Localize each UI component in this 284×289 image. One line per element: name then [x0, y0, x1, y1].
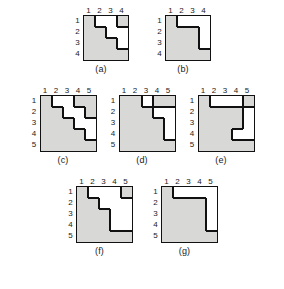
row-label-f-5: 5 [66, 230, 75, 241]
grid-cells-c [41, 96, 96, 151]
cell-e-r2c5 [243, 107, 254, 118]
diagram-body-e: 1234512345 [188, 86, 255, 152]
col-label-g-2: 2 [172, 177, 183, 186]
diagram-d: 1234512345(d) [109, 86, 176, 165]
row-label-axis-g: 12345 [151, 177, 160, 241]
cell-b-r3c4 [199, 38, 210, 49]
cell-c-r1c1 [41, 96, 52, 107]
col-label-a-3: 3 [105, 6, 116, 15]
grid-area-d: 12345 [119, 86, 176, 152]
cell-e-r5c4 [232, 140, 243, 151]
diagram-g: 1234512345(g) [151, 177, 218, 256]
axis-corner-spacer [188, 86, 197, 95]
row-label-axis-d: 12345 [109, 86, 118, 150]
col-label-e-4: 4 [231, 86, 242, 95]
cell-c-r5c1 [41, 140, 52, 151]
row-label-g-5: 5 [151, 230, 160, 241]
col-label-b-3: 3 [187, 6, 198, 15]
cell-d-r3c5 [164, 118, 175, 129]
cell-e-r1c2 [210, 96, 221, 107]
cell-g-r4c1 [162, 220, 173, 231]
cell-a-r4c1 [84, 49, 95, 60]
col-label-c-1: 1 [40, 86, 51, 95]
cell-g-r5c5 [206, 231, 217, 242]
col-label-axis-e: 12345 [198, 86, 255, 95]
row-label-d-4: 4 [109, 128, 118, 139]
cell-c-r4c3 [63, 129, 74, 140]
grid-area-f: 12345 [76, 177, 133, 243]
cell-e-r3c2 [210, 118, 221, 129]
cell-d-r2c3 [142, 107, 153, 118]
cell-e-r5c1 [199, 140, 210, 151]
cell-d-r4c4 [153, 129, 164, 140]
cell-e-r4c2 [210, 129, 221, 140]
axis-corner-spacer [151, 177, 160, 186]
cell-d-r1c1 [120, 96, 131, 107]
cell-d-r1c5 [164, 96, 175, 107]
col-label-d-3: 3 [141, 86, 152, 95]
cell-b-r1c2 [177, 16, 188, 27]
cell-e-r3c4 [232, 118, 243, 129]
col-label-d-5: 5 [163, 86, 174, 95]
cell-c-r1c5 [85, 96, 96, 107]
cell-g-r5c4 [195, 231, 206, 242]
grid-border-c [40, 95, 97, 152]
cell-c-r2c1 [41, 107, 52, 118]
cell-c-r5c3 [63, 140, 74, 151]
cell-e-r1c5 [243, 96, 254, 107]
row-label-a-2: 2 [73, 26, 82, 37]
cell-b-r4c3 [188, 49, 199, 60]
cell-f-r4c1 [77, 220, 88, 231]
cell-f-r3c4 [110, 209, 121, 220]
cell-e-r3c1 [199, 118, 210, 129]
row-label-f-4: 4 [66, 219, 75, 230]
cell-g-r4c5 [206, 220, 217, 231]
cell-c-r4c5 [85, 129, 96, 140]
diagram-caption-d: (d) [136, 155, 148, 165]
cell-g-r2c3 [184, 198, 195, 209]
row-label-e-1: 1 [188, 95, 197, 106]
grid-area-g: 12345 [161, 177, 218, 243]
cell-c-r5c4 [74, 140, 85, 151]
cell-c-r5c2 [52, 140, 63, 151]
cell-f-r4c4 [110, 220, 121, 231]
cell-c-r3c4 [74, 118, 85, 129]
grid-border-g [161, 186, 218, 243]
col-label-a-2: 2 [94, 6, 105, 15]
col-label-b-2: 2 [176, 6, 187, 15]
cell-d-r5c3 [142, 140, 153, 151]
cell-f-r5c1 [77, 231, 88, 242]
cell-a-r3c4 [117, 38, 128, 49]
cell-a-r1c4 [117, 16, 128, 27]
cell-e-r1c4 [232, 96, 243, 107]
cell-d-r2c4 [153, 107, 164, 118]
grid-border-e [198, 95, 255, 152]
cell-b-r1c1 [166, 16, 177, 27]
row-label-d-3: 3 [109, 117, 118, 128]
cell-g-r3c1 [162, 209, 173, 220]
figure-row-1: 12341234(a)12341234(b) [0, 0, 284, 74]
cell-g-r4c3 [184, 220, 195, 231]
col-label-f-1: 1 [76, 177, 87, 186]
row-label-g-4: 4 [151, 219, 160, 230]
cell-e-r5c3 [221, 140, 232, 151]
cell-f-r4c5 [121, 220, 132, 231]
row-label-c-2: 2 [30, 106, 39, 117]
cell-e-r4c5 [243, 129, 254, 140]
cell-d-r5c1 [120, 140, 131, 151]
cell-f-r4c2 [88, 220, 99, 231]
cell-b-r3c1 [166, 38, 177, 49]
cell-f-r5c3 [99, 231, 110, 242]
cell-c-r1c4 [74, 96, 85, 107]
diagram-body-a: 12341234 [73, 6, 129, 61]
cell-e-r4c4 [232, 129, 243, 140]
cell-f-r3c2 [88, 209, 99, 220]
cell-d-r3c2 [131, 118, 142, 129]
row-label-e-4: 4 [188, 128, 197, 139]
figure-row-2: 1234512345(c)1234512345(d)1234512345(e) [0, 74, 284, 165]
diagram-b: 12341234(b) [155, 6, 211, 74]
diagram-e: 1234512345(e) [188, 86, 255, 165]
row-label-a-1: 1 [73, 15, 82, 26]
cell-b-r2c4 [199, 27, 210, 38]
cell-f-r3c5 [121, 209, 132, 220]
